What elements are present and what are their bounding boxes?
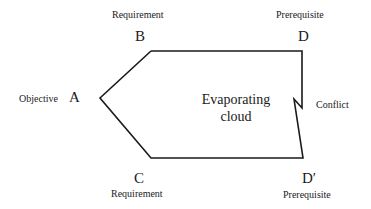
node-d-prime-letter: D′ [302, 170, 316, 187]
center-title-line-2: cloud [191, 108, 281, 125]
center-title: Evaporating cloud [191, 91, 281, 125]
node-b-letter: B [135, 28, 145, 45]
conflict-label: Conflict [316, 99, 349, 110]
node-d-label: Prerequisite [276, 9, 324, 20]
node-d-letter: D [298, 28, 309, 45]
node-a-label: Objective [19, 93, 58, 104]
node-c-letter: C [134, 170, 144, 187]
node-a-letter: A [69, 89, 80, 106]
node-d-prime-label: Prerequisite [283, 189, 331, 200]
node-b-label: Requirement [112, 9, 164, 20]
center-title-line-1: Evaporating [191, 91, 281, 108]
node-c-label: Requirement [111, 188, 163, 199]
